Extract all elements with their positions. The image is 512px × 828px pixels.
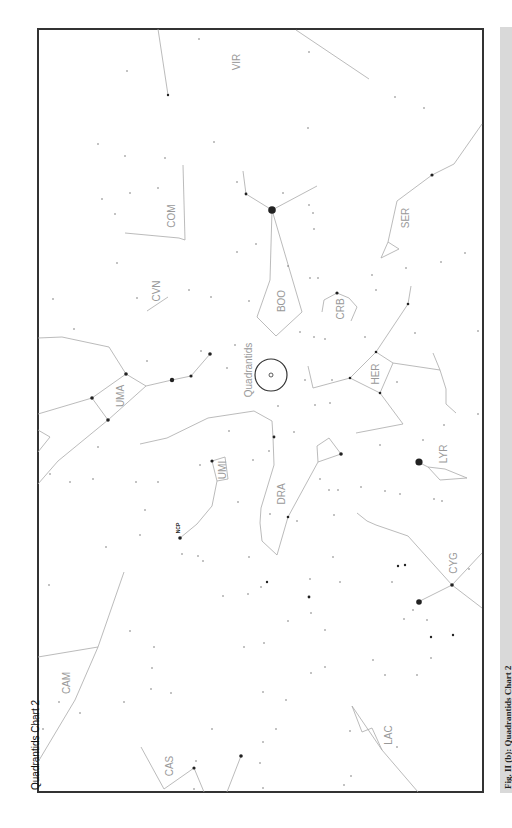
constellation-label-crb: CRB — [335, 298, 346, 319]
ncp-label: NCP — [175, 523, 181, 534]
constellation-label-her: HER — [370, 363, 381, 384]
constellation-label-vir: VIR — [231, 54, 242, 71]
constellation-label-cas: CAS — [164, 756, 175, 777]
constellation-label-lyr: LYR — [438, 445, 449, 464]
figure-caption-bar: Fig. II (b): Quadrantids Chart 2 — [500, 27, 512, 793]
chart-title: Quadrantids Chart 2 — [30, 700, 41, 790]
chart-frame — [38, 29, 483, 792]
constellation-label-ser: SER — [400, 208, 411, 229]
radiant-label: Quadrantids — [243, 343, 254, 397]
figure-caption: Fig. II (b): Quadrantids Chart 2 — [503, 665, 512, 789]
constellation-label-dra: DRA — [276, 483, 287, 504]
constellation-label-cvn: CVN — [151, 280, 162, 301]
constellation-label-uma: UMA — [115, 385, 126, 407]
constellation-label-boo: BOO — [276, 290, 287, 312]
constellation-label-cyg: CYG — [448, 552, 459, 574]
constellation-label-lac: LAC — [383, 725, 394, 744]
constellation-label-com: COM — [166, 204, 177, 227]
constellation-label-umi: UMI — [217, 461, 228, 479]
constellation-label-cam: CAM — [61, 672, 72, 694]
